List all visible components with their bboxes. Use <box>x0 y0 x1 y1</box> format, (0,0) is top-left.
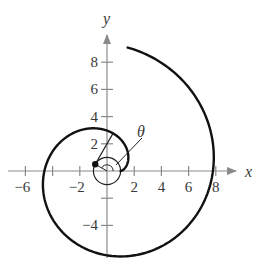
x-tick-label: 2 <box>130 179 138 195</box>
x-tick-label: −2 <box>69 179 85 195</box>
x-tick-label: 8 <box>212 179 220 195</box>
y-tick-label: 2 <box>91 136 99 152</box>
y-tick-label: −4 <box>82 217 98 233</box>
y-axis-label: y <box>101 10 111 28</box>
theta-label: θ <box>137 123 145 140</box>
y-tick-label: 6 <box>91 81 99 97</box>
tick-labels: −6−224688642−4 <box>14 54 219 233</box>
x-tick-label: 4 <box>158 179 166 195</box>
involute-diagram: −6−224688642−4 x y θ <box>0 0 277 261</box>
x-tick-label: −6 <box>14 179 30 195</box>
x-axis-label: x <box>244 163 252 180</box>
y-tick-label: 8 <box>91 54 99 70</box>
tangent-point-dot <box>92 161 98 167</box>
y-tick-label: 4 <box>91 109 99 125</box>
x-tick-label: 6 <box>185 179 193 195</box>
